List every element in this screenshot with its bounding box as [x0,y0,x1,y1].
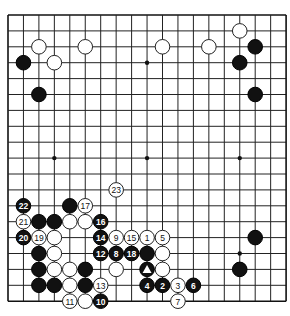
move-number-label: 21 [19,217,29,227]
black-stone: 4 [140,278,155,293]
white-stone: 15 [124,230,139,245]
white-stone: 9 [109,230,124,245]
black-stone-disc [32,278,47,293]
black-stone-disc [32,87,47,102]
white-stone-disc [78,294,93,309]
white-stone: 19 [32,230,47,245]
black-stone [32,278,47,293]
move-number-label: 13 [96,281,106,291]
white-stone [78,294,93,309]
black-stone-disc [248,230,263,245]
black-stone [248,40,263,55]
black-stone [47,278,62,293]
star-point [238,251,242,255]
white-stone [202,40,217,55]
black-stone-disc [63,199,78,214]
white-stone-disc [63,262,78,277]
go-board: 2322172116201914915151281813423611107 [0,0,290,316]
white-stone-disc [155,262,170,277]
black-stone-disc [232,262,247,277]
black-stone-disc [140,246,155,261]
black-stone [63,199,78,214]
white-stone: 3 [171,278,186,293]
black-stone: 20 [16,230,31,245]
white-stone: 5 [155,230,170,245]
white-stone [155,40,170,55]
white-stone [78,40,93,55]
move-number-label: 19 [34,233,44,243]
black-stone [32,214,47,229]
black-stone [32,246,47,261]
black-stone-disc [248,40,263,55]
white-stone: 21 [16,214,31,229]
stones-layer: 2322172116201914915151281813423611107 [16,24,262,309]
black-stone [140,262,155,277]
black-stone-disc [47,278,62,293]
move-number-label: 5 [160,233,165,243]
black-stone-disc [32,262,47,277]
star-point [145,61,149,65]
black-stone-disc [78,278,93,293]
black-stone: 14 [93,230,108,245]
black-stone: 18 [124,246,139,261]
white-stone-disc [32,40,47,55]
move-number-label: 2 [160,281,165,291]
black-stone: 22 [16,199,31,214]
white-stone-disc [47,246,62,261]
black-stone [16,55,31,70]
black-stone [140,246,155,261]
star-point [238,156,242,160]
move-number-label: 4 [145,281,150,291]
white-stone: 13 [93,278,108,293]
white-stone-disc [63,214,78,229]
white-stone [32,40,47,55]
move-number-label: 6 [191,281,196,291]
white-stone-disc [232,24,247,39]
white-stone: 17 [78,199,93,214]
black-stone [32,262,47,277]
white-stone [47,55,62,70]
white-stone [78,214,93,229]
move-number-label: 1 [145,233,150,243]
black-stone-disc [16,55,31,70]
black-stone [232,262,247,277]
white-stone-disc [202,40,217,55]
black-stone-disc [232,55,247,70]
star-point [145,156,149,160]
black-stone [248,230,263,245]
move-number-label: 3 [176,281,181,291]
move-number-label: 10 [96,297,106,307]
white-stone-disc [47,262,62,277]
move-number-label: 18 [127,249,137,259]
black-stone: 10 [93,294,108,309]
move-number-label: 14 [96,233,106,243]
white-stone-disc [155,40,170,55]
white-stone [63,262,78,277]
move-number-label: 23 [111,185,121,195]
white-stone-disc [109,262,124,277]
black-stone [248,87,263,102]
black-stone [78,262,93,277]
move-number-label: 20 [19,233,29,243]
move-number-label: 17 [81,201,91,211]
black-stone: 16 [93,214,108,229]
white-stone [109,262,124,277]
white-stone [47,262,62,277]
black-stone-disc [78,262,93,277]
star-point [52,156,56,160]
black-stone: 6 [186,278,201,293]
white-stone-disc [47,230,62,245]
black-stone: 2 [155,278,170,293]
white-stone [155,262,170,277]
black-stone: 12 [93,246,108,261]
white-stone [232,24,247,39]
white-stone [155,246,170,261]
white-stone [63,278,78,293]
move-number-label: 15 [127,233,137,243]
black-stone: 8 [109,246,124,261]
white-stone: 1 [140,230,155,245]
white-stone: 23 [109,183,124,198]
move-number-label: 11 [65,297,74,307]
black-stone [78,278,93,293]
white-stone-disc [63,278,78,293]
